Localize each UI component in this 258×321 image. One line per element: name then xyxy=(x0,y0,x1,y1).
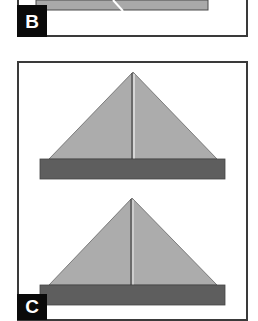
panel-label-c: C xyxy=(17,294,47,320)
upper-fold xyxy=(40,72,225,179)
lower-fold xyxy=(40,198,225,305)
base-strip-upper xyxy=(40,159,225,179)
base-strip-lower xyxy=(40,285,225,305)
triangle-upper xyxy=(49,72,217,159)
